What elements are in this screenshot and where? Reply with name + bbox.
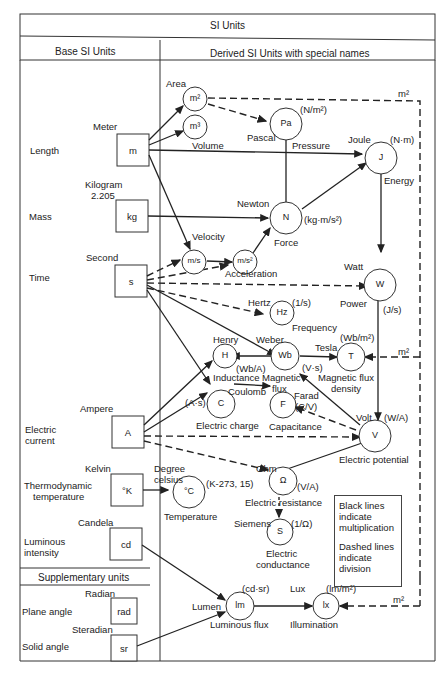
quantity-charge: Electric charge xyxy=(196,420,259,431)
quantity-energy: Energy xyxy=(384,175,414,186)
quantity-length: Length xyxy=(30,145,59,156)
quantity-illumination: Illumination xyxy=(290,619,338,630)
sym-Pa: Pa xyxy=(270,118,302,128)
quantity-luminous-2: intensity xyxy=(24,547,59,558)
quantity-pressure: Pressure xyxy=(292,140,330,151)
formula-newton: (kg·m/s²) xyxy=(304,214,342,225)
name-newton: Newton xyxy=(237,198,269,209)
sym-J: J xyxy=(365,152,397,162)
sym-T: T xyxy=(337,351,365,361)
formula-watt: (J/s) xyxy=(383,304,401,315)
quantity-mass: Mass xyxy=(29,211,52,222)
name-lux: Lux xyxy=(290,583,305,594)
quantity-frequency: Frequency xyxy=(292,322,337,333)
sym-degC: °C xyxy=(173,486,205,496)
name-ohm: Ohm xyxy=(256,463,277,474)
name-siemens: Siemens xyxy=(234,518,271,529)
quantity-plane-angle: Plane angle xyxy=(22,606,72,617)
name-pascal: Pascal xyxy=(247,132,276,143)
formula-farad: (C/V) xyxy=(295,401,317,412)
quantity-weber-1: Magnetic xyxy=(262,372,301,383)
quantity-thermo-2: temperature xyxy=(33,491,84,502)
header-derived: Derived SI Units with special names xyxy=(210,48,370,59)
quantity-temperature: Temperature xyxy=(164,511,217,522)
sym-V: V xyxy=(359,430,391,440)
quantity-luminous-flux: Luminous flux xyxy=(210,619,269,630)
legend-black-2: indicate xyxy=(339,511,372,522)
sym-N: N xyxy=(270,212,302,222)
formula-joule: (N·m) xyxy=(390,134,414,145)
symbol-K: °K xyxy=(111,485,143,496)
sym-Hz: Hz xyxy=(270,307,294,317)
quantity-inductance: Inductance xyxy=(213,372,259,383)
name-volt: Volt xyxy=(356,412,372,423)
formula-celsius: (K-273, 15) xyxy=(206,478,254,489)
quantity-conductance-1: Electric xyxy=(266,548,297,559)
name-candela: Candela xyxy=(78,517,113,528)
legend-black-1: Black lines xyxy=(339,500,384,511)
sym-ohm: Ω xyxy=(269,475,297,485)
sym-C: C xyxy=(207,398,235,408)
symbol-A: A xyxy=(112,427,144,438)
symbol-cd: cd xyxy=(110,539,142,550)
sym-m2: m² xyxy=(183,93,207,103)
symbol-s: s xyxy=(115,276,147,287)
formula-tesla: (Wb/m²) xyxy=(340,332,374,343)
name-celsius-2: celsius xyxy=(154,474,183,485)
sym-H: H xyxy=(213,350,237,360)
name-hertz: Hertz xyxy=(248,297,271,308)
header-supplementary: Supplementary units xyxy=(38,572,129,583)
sym-F: F xyxy=(270,399,296,409)
quantity-solid-angle: Solid angle xyxy=(22,641,69,652)
name-watt: Watt xyxy=(344,261,363,272)
quantity-thermo-1: Thermodynamic xyxy=(24,480,92,491)
name-second: Second xyxy=(86,252,118,263)
name-lumen: Lumen xyxy=(192,601,221,612)
sym-Wb: Wb xyxy=(271,350,299,360)
title: SI Units xyxy=(210,20,245,31)
quantity-tesla-1: Magnetic flux xyxy=(318,372,374,383)
label-volume: Volume xyxy=(192,140,224,151)
quantity-conductance-2: conductance xyxy=(256,559,310,570)
formula-volt: (W/A) xyxy=(384,412,408,423)
name-kilogram-conv: 2.205 xyxy=(91,190,115,201)
formula-hertz: (1/s) xyxy=(292,297,311,308)
quantity-weber-2: flux xyxy=(272,383,287,394)
header-base: Base SI Units xyxy=(55,46,116,57)
legend-box: Black lines indicate multiplication Dash… xyxy=(334,495,402,587)
quantity-luminous-1: Luminous xyxy=(24,536,65,547)
symbol-m: m xyxy=(117,145,149,156)
quantity-capacitance: Capacitance xyxy=(269,421,322,432)
sym-lx: lx xyxy=(313,600,339,610)
name-steradian: Steradian xyxy=(72,624,113,635)
quantity-potential: Electric potential xyxy=(339,454,409,465)
name-celsius-1: Degree xyxy=(154,463,185,474)
name-coulomb: Coulomb xyxy=(228,386,266,397)
label-m2-top: m² xyxy=(398,88,409,99)
name-meter: Meter xyxy=(93,121,117,132)
quantity-resistance: Electric resistance xyxy=(245,497,322,508)
formula-lumen: (cd·sr) xyxy=(242,583,269,594)
sym-velocity: m/s xyxy=(182,256,206,265)
legend-dashed-3: division xyxy=(339,563,371,574)
quantity-force: Force xyxy=(274,237,298,248)
name-tesla: Tesla xyxy=(315,342,337,353)
name-joule: Joule xyxy=(348,134,371,145)
symbol-rad: rad xyxy=(111,606,137,617)
name-ampere: Ampere xyxy=(80,403,113,414)
label-m2-tesla: m² xyxy=(398,346,409,357)
name-kilogram: Kilogram xyxy=(85,179,123,190)
name-farad: Farad xyxy=(294,390,319,401)
quantity-electric-current-1: Electric xyxy=(25,424,56,435)
label-area: Area xyxy=(166,78,186,89)
quantity-electric-current-2: current xyxy=(25,435,55,446)
name-radian: Radian xyxy=(85,588,115,599)
legend-dashed-2: indicate xyxy=(339,552,372,563)
formula-pascal: (N/m²) xyxy=(300,104,327,115)
sym-lm: lm xyxy=(226,600,254,610)
label-velocity: Velocity xyxy=(192,231,225,242)
label-acceleration: Acceleration xyxy=(225,268,277,279)
quantity-time: Time xyxy=(29,272,50,283)
name-weber: Weber xyxy=(256,334,284,345)
formula-ohm: (V/A) xyxy=(297,481,319,492)
